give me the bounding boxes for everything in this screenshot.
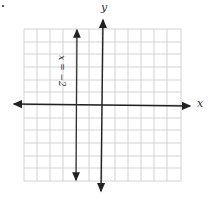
- coordinate-grid: [0, 0, 209, 201]
- x-axis-label: x: [197, 97, 203, 110]
- y-axis-label: y: [101, 1, 107, 14]
- y-axis: [101, 20, 103, 191]
- line-label: x = −2: [57, 55, 67, 87]
- marker-dot: .: [1, 0, 5, 10]
